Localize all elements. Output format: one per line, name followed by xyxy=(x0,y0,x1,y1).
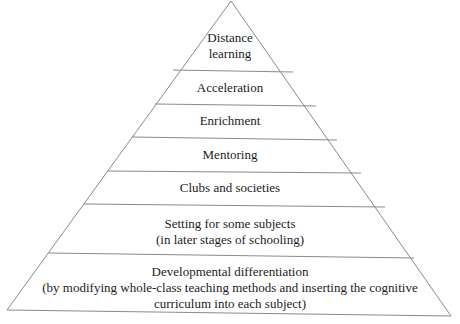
tier-divider-5 xyxy=(84,204,385,207)
tier-label-line: (in later stages of schooling) xyxy=(0,232,460,248)
tier-label-line: Enrichment xyxy=(0,113,460,129)
tier-divider-3 xyxy=(132,137,337,140)
tier-setting: Setting for some subjects (in later stag… xyxy=(0,216,460,248)
tier-label-line: Setting for some subjects xyxy=(0,216,460,232)
tier-acceleration: Acceleration xyxy=(0,80,460,96)
tier-divider-6 xyxy=(49,253,414,258)
tier-developmental-differentiation: Developmental differentiation (by modify… xyxy=(0,264,460,312)
tier-clubs-and-societies: Clubs and societies xyxy=(0,180,460,196)
tier-label-line: (by modifying whole-class teaching metho… xyxy=(0,280,460,296)
tier-label-line: learning xyxy=(0,46,460,62)
tier-label-line: Clubs and societies xyxy=(0,180,460,196)
tier-label-line: Developmental differentiation xyxy=(0,264,460,280)
tier-label-line: curriculum into each subject) xyxy=(0,296,460,312)
tier-label-line: Distance xyxy=(0,30,460,46)
tier-label-line: Acceleration xyxy=(0,80,460,96)
tier-mentoring: Mentoring xyxy=(0,147,460,163)
tier-label-line: Mentoring xyxy=(0,147,460,163)
tier-enrichment: Enrichment xyxy=(0,113,460,129)
tier-divider-1 xyxy=(173,70,293,72)
tier-divider-2 xyxy=(155,104,316,106)
tier-distance-learning: Distance learning xyxy=(0,30,460,62)
tier-divider-4 xyxy=(108,171,361,173)
